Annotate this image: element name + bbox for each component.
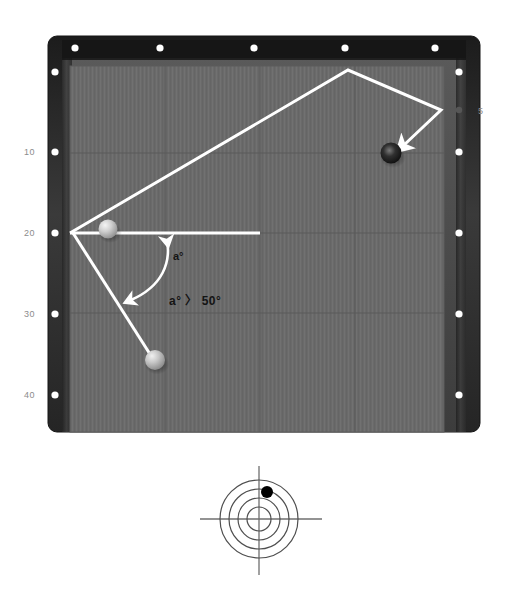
axis-label-left-10: 10 xyxy=(24,147,35,157)
axis-label-left-30: 30 xyxy=(24,309,35,319)
angle-condition-label: a° 〉 50° xyxy=(169,291,221,308)
axis-label-left-20: 20 xyxy=(24,228,35,238)
label-layer: 10 20 30 40 5 a° a° 〉 50° xyxy=(0,0,511,592)
axis-label-left-40: 40 xyxy=(24,390,35,400)
billiard-diagram-root: 10 20 30 40 5 a° a° 〉 50° xyxy=(0,0,511,592)
axis-label-right-5: 5 xyxy=(478,106,483,116)
angle-label: a° xyxy=(173,250,184,262)
